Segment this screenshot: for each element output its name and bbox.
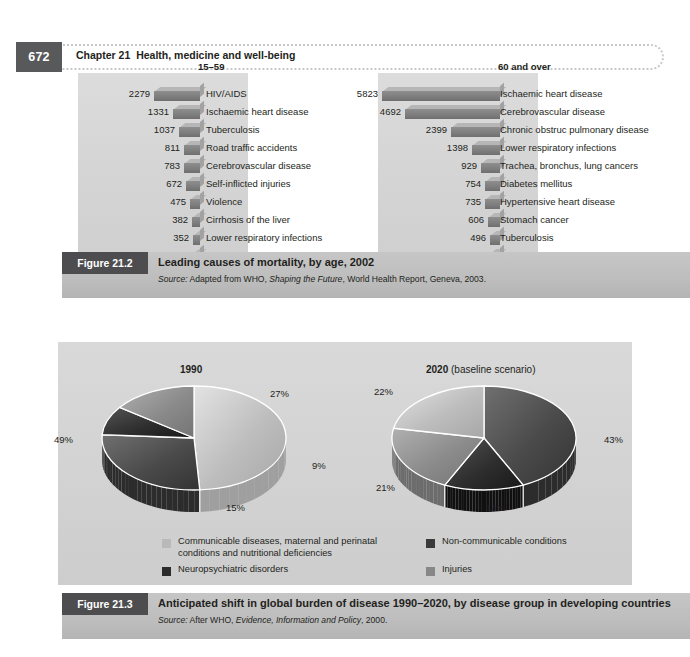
pie-slice-side bbox=[396, 453, 397, 477]
bar-category-label: Hypertensive heart disease bbox=[500, 196, 615, 207]
bar-front-face bbox=[192, 217, 200, 227]
pie-slice-side bbox=[423, 477, 426, 501]
bar-category-label: Tuberculosis bbox=[500, 232, 554, 243]
pie-slice-side bbox=[118, 468, 121, 493]
pie-slice-side bbox=[133, 477, 137, 501]
pie-1990-percent-label: 15% bbox=[226, 502, 245, 513]
pie-slice-side bbox=[106, 453, 108, 478]
bar-chart-15-59: 15–592279HIV/AIDS1331Ischaemic heart dis… bbox=[78, 73, 248, 271]
pie-slice-side bbox=[478, 490, 481, 512]
chart-title: 15–59 bbox=[198, 61, 224, 72]
bar-value-label: 735 bbox=[451, 196, 481, 207]
source-text-b: , 2000. bbox=[361, 615, 387, 625]
bar-front-face bbox=[190, 199, 200, 209]
bar-value-label: 496 bbox=[456, 232, 486, 243]
bar bbox=[184, 141, 200, 152]
bar-value-label: 929 bbox=[447, 160, 477, 171]
bar bbox=[472, 141, 500, 152]
legend-swatch bbox=[426, 567, 435, 576]
pie-slice-side bbox=[464, 489, 467, 511]
figure-21-3-caption: Figure 21.3 Anticipated shift in global … bbox=[62, 593, 690, 639]
chart-title: 60 and over bbox=[498, 61, 551, 72]
bar-value-label: 2279 bbox=[120, 88, 150, 99]
bar-category-label: Ischaemic heart disease bbox=[206, 106, 308, 117]
bar bbox=[193, 231, 200, 242]
pie-slice-side bbox=[406, 466, 408, 490]
source-label: Source: bbox=[158, 615, 188, 625]
bar-category-label: Diabetes mellitus bbox=[500, 178, 572, 189]
bar-category-label: Self-inflicted injuries bbox=[206, 178, 290, 189]
bar bbox=[488, 213, 500, 224]
bar-front-face bbox=[154, 91, 200, 101]
source-italic: Shaping the Future bbox=[269, 274, 342, 284]
legend-label: Neuropsychiatric disorders bbox=[178, 564, 410, 576]
bar-value-label: 754 bbox=[451, 178, 481, 189]
pie-slice-side bbox=[194, 490, 200, 512]
bar bbox=[173, 105, 200, 116]
pie-slice-side bbox=[447, 486, 450, 509]
bar-front-face bbox=[184, 145, 200, 155]
bar-value-label: 811 bbox=[150, 142, 180, 153]
bar-value-label: 1331 bbox=[139, 106, 169, 117]
pie-slice-side bbox=[430, 480, 434, 503]
legend-label: Non-communicable conditions bbox=[442, 536, 644, 548]
pie-slice-side bbox=[172, 489, 177, 512]
pie-slice-side bbox=[456, 487, 459, 509]
bar-value-label: 5823 bbox=[348, 88, 378, 99]
bar bbox=[485, 195, 500, 206]
pie-slice-side bbox=[178, 489, 184, 511]
bar-category-label: Trachea, bronchus, lung cancers bbox=[500, 160, 638, 171]
pie-slice-side bbox=[404, 464, 406, 488]
pie-slice-side bbox=[110, 459, 112, 484]
pie-slice-side bbox=[523, 483, 531, 507]
bar bbox=[184, 159, 200, 170]
pie-slice-side bbox=[531, 480, 538, 505]
legend-swatch bbox=[162, 539, 171, 548]
legend-swatch bbox=[426, 539, 435, 548]
figure-21-2-tag: Figure 21.2 bbox=[62, 252, 148, 274]
bar bbox=[192, 213, 200, 224]
bar bbox=[451, 123, 500, 134]
pie-slice-side bbox=[472, 490, 475, 512]
pie-slice-side bbox=[113, 462, 116, 487]
pie-slice-side bbox=[518, 486, 521, 509]
pie-slice-side bbox=[395, 450, 396, 474]
pie-slice-side bbox=[481, 490, 484, 512]
pie-slice-side bbox=[397, 455, 399, 479]
bar-chart-60-and-over: 60 and over5823Ischaemic heart disease46… bbox=[378, 73, 538, 271]
pie-slice-side bbox=[200, 489, 210, 512]
legend-label: Communicable diseases, maternal and peri… bbox=[178, 536, 410, 559]
bar-value-label: 1398 bbox=[438, 142, 468, 153]
bar-category-label: Cerebrovascular disease bbox=[500, 106, 605, 117]
pie-slice-side bbox=[108, 456, 110, 481]
bar bbox=[186, 177, 200, 188]
legend-label: Injuries bbox=[442, 564, 644, 576]
bar bbox=[382, 87, 500, 98]
bar-value-label: 352 bbox=[159, 232, 189, 243]
pie-slice-side bbox=[137, 479, 141, 503]
bar-front-face bbox=[193, 235, 200, 245]
pie-slice-side bbox=[515, 486, 518, 509]
bar bbox=[190, 195, 200, 206]
figure-21-3-charts: 199049%27%9%15%2020 (baseline scenario)4… bbox=[58, 342, 632, 585]
figure-21-3-tag: Figure 21.3 bbox=[62, 593, 148, 615]
figure-21-3-source: Source: After WHO, Evidence, Information… bbox=[158, 615, 387, 625]
bar bbox=[405, 105, 500, 116]
bar-category-label: Violence bbox=[206, 196, 242, 207]
bar-front-face bbox=[184, 163, 200, 173]
figure-21-2-source: Source: Adapted from WHO, Shaping the Fu… bbox=[158, 274, 486, 284]
pie-slice-side bbox=[409, 468, 412, 492]
bar-category-label: Ischaemic heart disease bbox=[500, 88, 602, 99]
pie-slice-side bbox=[400, 459, 402, 483]
bar-value-label: 475 bbox=[156, 196, 186, 207]
bar-value-label: 2399 bbox=[417, 124, 447, 135]
pie-slice-side bbox=[151, 484, 156, 507]
source-text-b: , World Health Report, Geneva, 2003. bbox=[342, 274, 486, 284]
pie-slice-side bbox=[507, 488, 510, 510]
bar-front-face bbox=[451, 127, 500, 137]
pie-slice-side bbox=[189, 490, 195, 512]
bar-category-label: Chronic obstruc pulmonary disease bbox=[500, 124, 649, 135]
bar-front-face bbox=[405, 109, 500, 119]
pie-slice-side bbox=[122, 470, 126, 494]
pie-slice-side bbox=[437, 483, 441, 506]
